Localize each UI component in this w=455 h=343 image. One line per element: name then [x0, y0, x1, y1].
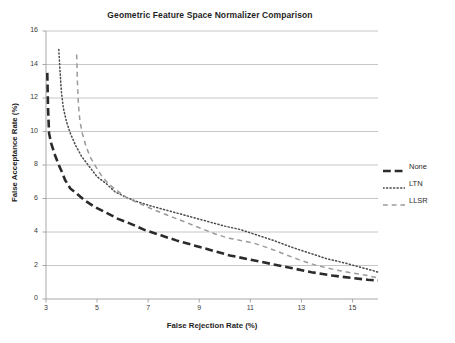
x-tick-label: 13 [289, 304, 313, 311]
legend-swatch-llsr [383, 196, 405, 206]
legend-label-none: None [409, 162, 427, 171]
legend-swatch-ltn [383, 179, 405, 189]
series-line-none [47, 73, 378, 281]
y-tick-label: 8 [16, 160, 38, 167]
y-tick-label: 16 [16, 26, 38, 33]
legend-item-llsr[interactable]: LLSR [383, 192, 453, 209]
y-tick-label: 6 [16, 194, 38, 201]
y-tick-label: 10 [16, 127, 38, 134]
legend-item-none[interactable]: None [383, 158, 453, 175]
x-tick-label: 15 [340, 304, 364, 311]
legend-label-llsr: LLSR [409, 196, 428, 205]
chart-legend: None LTN LLSR [383, 158, 453, 209]
y-tick-label: 0 [16, 294, 38, 301]
y-tick-label: 2 [16, 261, 38, 268]
chart-figure: Geometric Feature Space Normalizer Compa… [0, 0, 455, 343]
y-tick-label: 4 [16, 227, 38, 234]
legend-swatch-none [383, 162, 405, 172]
series-line-llsr [77, 54, 378, 278]
y-tick-label: 12 [16, 93, 38, 100]
y-tick-label: 14 [16, 60, 38, 67]
x-tick-label: 11 [238, 304, 262, 311]
series-line-ltn [59, 49, 378, 272]
x-tick-label: 3 [34, 304, 58, 311]
legend-item-ltn[interactable]: LTN [383, 175, 453, 192]
legend-label-ltn: LTN [409, 179, 423, 188]
x-tick-label: 5 [85, 304, 109, 311]
x-tick-label: 7 [136, 304, 160, 311]
x-tick-label: 9 [187, 304, 211, 311]
